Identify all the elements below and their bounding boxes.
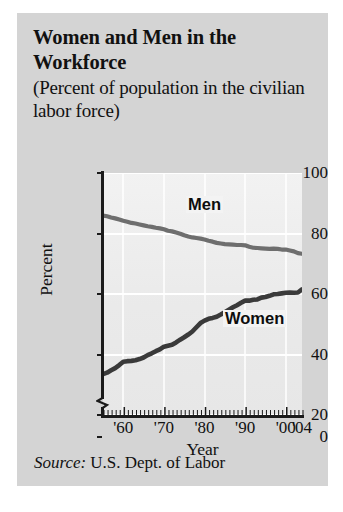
y-tick-label: 80 (250, 224, 328, 244)
x-tick-label: '60 (106, 418, 140, 438)
series-label-women: Women (223, 310, 286, 327)
x-tick-label: '80 (188, 418, 222, 438)
x-tick-label: '90 (228, 418, 262, 438)
page-title: Women and Men in the Workforce (33, 25, 318, 75)
y-axis-line (101, 171, 104, 399)
x-tick-label: '04 (285, 418, 319, 438)
chart-region: Men Women 020406080100 '60'70'80'90'00'0… (17, 151, 328, 441)
y-tick-mark (97, 233, 102, 235)
figure-subtitle: (Percent of population in the civilian l… (33, 76, 318, 122)
y-tick-mark (97, 436, 102, 438)
y-tick-mark (97, 354, 102, 356)
series-label-men: Men (186, 196, 223, 213)
y-axis-title: Percent (36, 225, 57, 315)
y-tick-mark (97, 293, 102, 295)
y-tick-mark (97, 172, 102, 174)
y-tick-label: 100 (250, 163, 328, 183)
y-tick-label: 60 (250, 284, 328, 304)
heading-block: Women and Men in the Workforce (Percent … (33, 25, 318, 122)
x-tick-label: '70 (147, 418, 181, 438)
y-tick-mark (97, 414, 102, 416)
y-tick-label: 40 (250, 345, 328, 365)
figure-card: Women and Men in the Workforce (Percent … (17, 13, 328, 486)
source-value: U.S. Dept. of Labor (90, 453, 225, 472)
x-axis-ticks (103, 406, 304, 416)
source-label: Source: (34, 453, 86, 472)
source-note: Source:U.S. Dept. of Labor (34, 453, 225, 473)
